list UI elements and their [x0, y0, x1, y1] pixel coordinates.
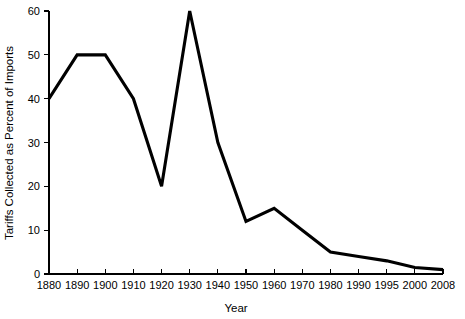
y-tick-label: 30: [28, 137, 40, 149]
chart-canvas: 0102030405060 18801890190019101920193019…: [0, 0, 465, 319]
x-tick-label: 2008: [431, 279, 455, 291]
x-tick-label: 1990: [346, 279, 370, 291]
tariffs-line-chart: 0102030405060 18801890190019101920193019…: [0, 0, 465, 319]
x-tick-label: 1900: [93, 279, 117, 291]
x-tick-label: 1970: [290, 279, 314, 291]
y-tick-label: 10: [28, 224, 40, 236]
x-tick-label: 1960: [262, 279, 286, 291]
x-axis-title: Year: [224, 302, 247, 314]
y-axis-title: Tariffs Collected as Percent of Imports: [3, 46, 15, 240]
chart-background: [0, 0, 465, 319]
x-tick-label: 1920: [149, 279, 173, 291]
y-tick-label: 20: [28, 180, 40, 192]
x-tick-label: 1950: [234, 279, 258, 291]
y-tick-label: 40: [28, 93, 40, 105]
x-tick-label: 1995: [374, 279, 398, 291]
x-tick-label: 1940: [206, 279, 230, 291]
x-tick-label: 1980: [318, 279, 342, 291]
x-tick-label: 1880: [37, 279, 61, 291]
x-axis-tick-labels: 1880189019001910192019301940195019601970…: [37, 279, 455, 291]
x-tick-label: 1910: [121, 279, 145, 291]
x-tick-label: 2000: [403, 279, 427, 291]
y-tick-label: 60: [28, 5, 40, 17]
x-tick-label: 1890: [65, 279, 89, 291]
x-tick-label: 1930: [177, 279, 201, 291]
y-tick-label: 50: [28, 49, 40, 61]
